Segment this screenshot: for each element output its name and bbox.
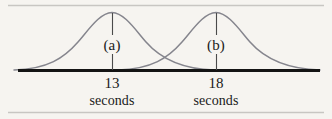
- tick-value-13: 13: [104, 76, 119, 91]
- figure-canvas: [0, 0, 332, 119]
- tick-unit-right: seconds: [193, 94, 238, 108]
- distribution-figure: (a) (b) 13 18 seconds seconds: [0, 0, 332, 119]
- tick-unit-left: seconds: [89, 94, 134, 108]
- peak-label-b: (b): [207, 38, 225, 53]
- peak-label-a: (a): [104, 38, 121, 53]
- tick-value-18: 18: [208, 76, 223, 91]
